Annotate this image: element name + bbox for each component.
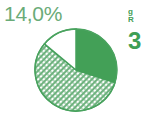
edge-text-line3: 3 xyxy=(128,29,142,53)
percentage-label: 14,0% xyxy=(4,2,62,26)
cropped-edge-text: g R 3 xyxy=(128,8,142,53)
edge-text-line2: R xyxy=(128,16,142,24)
pie-slices xyxy=(35,29,117,111)
